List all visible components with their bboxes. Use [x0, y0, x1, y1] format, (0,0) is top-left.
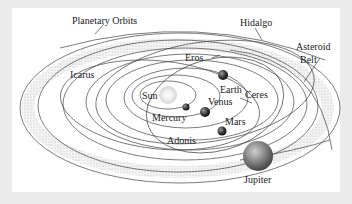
sun-icon	[159, 86, 177, 104]
venus-icon	[200, 107, 210, 117]
label-planetary-orbits: Planetary Orbits	[72, 15, 137, 26]
mars-icon	[218, 127, 227, 136]
label-mars: Mars	[225, 116, 246, 127]
label-eros: Eros	[185, 52, 203, 63]
label-sun: Sun	[142, 90, 158, 101]
label-asteroid: Asteroid	[296, 41, 330, 52]
label-ceres: Ceres	[245, 89, 268, 100]
label-jupiter: Jupiter	[244, 174, 272, 185]
orbits	[20, 27, 340, 183]
label-belt: Belt	[300, 54, 317, 65]
mercury-icon	[183, 104, 190, 111]
label-adonis: Adonis	[167, 135, 196, 146]
earth-icon	[218, 70, 228, 80]
jupiter-icon	[243, 141, 273, 171]
label-mercury: Mercury	[152, 112, 186, 123]
label-venus: Venus	[208, 96, 233, 107]
label-icarus: Icarus	[70, 69, 95, 80]
label-earth: Earth	[220, 84, 242, 95]
label-hidalgo: Hidalgo	[240, 17, 272, 28]
solar-system-diagram: Planetary Orbits Hidalgo Asteroid Belt I…	[0, 0, 352, 204]
